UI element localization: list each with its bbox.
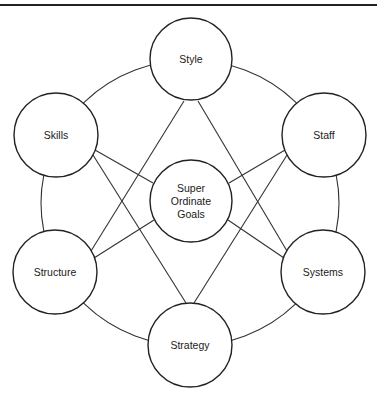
node-label: Goals: [177, 208, 204, 220]
node-label: Systems: [303, 266, 343, 278]
nodes: StyleSkillsStaffSuperOrdinateGoalsStruct…: [13, 18, 366, 387]
node-label: Ordinate: [171, 195, 211, 207]
node-label: Super: [177, 182, 206, 194]
edge-super-systems: [228, 220, 284, 258]
seven-s-diagram: StyleSkillsStaffSuperOrdinateGoalsStruct…: [0, 0, 377, 400]
node-skills: Skills: [14, 93, 98, 177]
edge-super-structure: [94, 220, 154, 258]
node-label: Strategy: [170, 339, 210, 351]
node-strategy: Strategy: [148, 303, 232, 387]
node-label: Skills: [44, 129, 69, 141]
node-super: SuperOrdinateGoals: [150, 160, 232, 242]
node-label: Staff: [313, 129, 334, 141]
edge-skills-super: [95, 150, 153, 183]
node-style: Style: [150, 18, 232, 100]
node-systems: Systems: [281, 230, 365, 314]
node-label: Structure: [34, 266, 77, 278]
node-structure: Structure: [13, 230, 97, 314]
node-label: Style: [179, 53, 203, 65]
node-staff: Staff: [282, 93, 366, 177]
